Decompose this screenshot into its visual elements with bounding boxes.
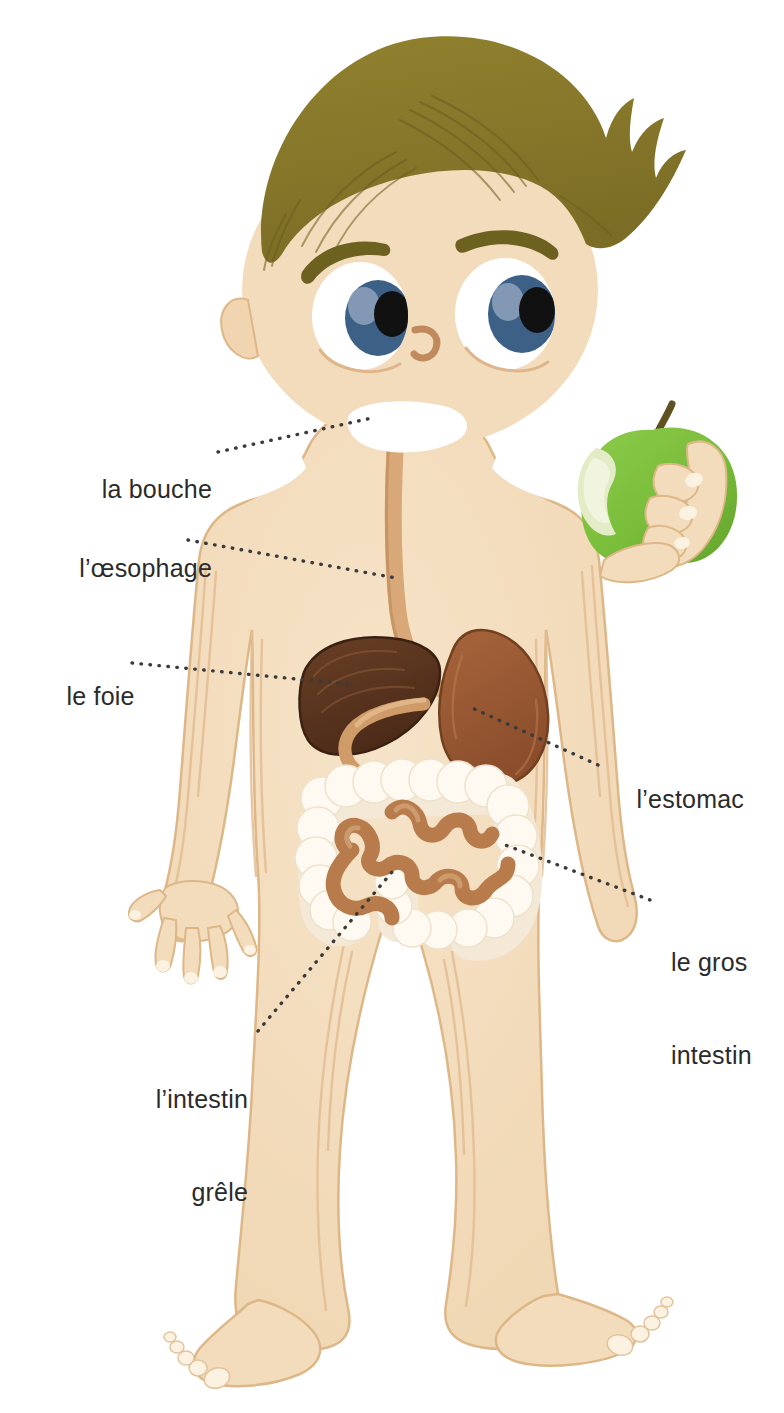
label-l-estomac-text: l’estomac — [637, 785, 744, 813]
label-l-oesophage[interactable]: l’œsophage — [22, 522, 212, 615]
head — [221, 36, 686, 452]
pupil-right — [519, 287, 555, 333]
label-le-gros-intestin[interactable]: le gros intestin — [671, 885, 781, 1133]
label-le-gros-intestin-line2: intestin — [671, 1040, 781, 1071]
label-le-gros-intestin-line1: le gros — [671, 947, 781, 978]
label-l-intestin-grele[interactable]: l’intestin grêle — [120, 1022, 248, 1270]
iris-highlight-right — [492, 283, 524, 321]
label-le-foie[interactable]: le foie — [38, 650, 123, 743]
left-hand — [129, 881, 256, 984]
apple-prop — [578, 404, 737, 582]
illustration-page: Le système digestif — [0, 0, 784, 1413]
label-l-oesophage-text: l’œsophage — [79, 554, 212, 582]
label-l-estomac[interactable]: l’estomac — [608, 753, 758, 846]
pupil-left — [374, 291, 410, 337]
label-l-intestin-grele-line1: l’intestin — [120, 1084, 248, 1115]
label-l-intestin-grele-line2: grêle — [120, 1177, 248, 1208]
label-la-bouche-text: la bouche — [102, 475, 212, 503]
label-le-foie-text: le foie — [67, 682, 135, 710]
